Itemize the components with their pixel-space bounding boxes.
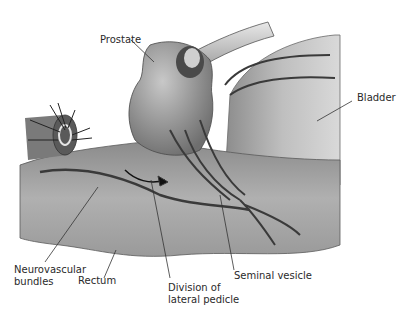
label-bladder: Bladder (357, 92, 396, 104)
label-seminal-vesicle: Seminal vesicle (234, 270, 312, 282)
label-division-lateral-pedicle: Division of lateral pedicle (168, 282, 239, 306)
prostate-shape (129, 42, 213, 155)
label-rectum: Rectum (78, 275, 116, 287)
label-neurovascular-bundles: Neurovascular bundles (14, 264, 86, 288)
label-prostate: Prostate (100, 34, 141, 46)
